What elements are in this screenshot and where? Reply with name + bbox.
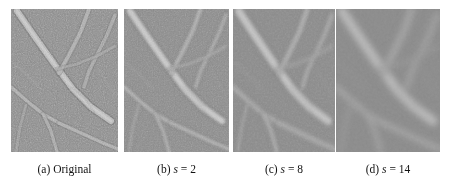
panel-row: (a) Original (b) s = 2 (c) s = 8 (d) s =… bbox=[0, 0, 451, 185]
caption-b-prefix: (b) bbox=[157, 163, 170, 175]
image-panel-c[interactable] bbox=[233, 9, 335, 152]
caption-d-prefix: (d) bbox=[366, 163, 379, 175]
panel-a-svg bbox=[11, 9, 118, 152]
figure-container: (a) Original (b) s = 2 (c) s = 8 (d) s =… bbox=[0, 0, 451, 185]
caption-panel-b: (b) s = 2 bbox=[124, 160, 229, 178]
panel-a-image bbox=[11, 9, 118, 152]
panel-c-svg bbox=[233, 9, 335, 152]
caption-a-prefix: (a) bbox=[38, 163, 51, 175]
panel-d-svg bbox=[336, 9, 440, 152]
caption-panel-c: (c) s = 8 bbox=[233, 160, 335, 178]
caption-a-label: Original bbox=[53, 163, 91, 175]
image-panel-a[interactable] bbox=[11, 9, 118, 152]
image-panel-b[interactable] bbox=[124, 9, 229, 152]
caption-b-value: 2 bbox=[190, 163, 196, 175]
caption-c-value: 8 bbox=[297, 163, 303, 175]
panel-c-image bbox=[233, 9, 335, 152]
caption-panel-a: (a) Original bbox=[11, 160, 118, 178]
caption-c-prefix: (c) bbox=[265, 163, 278, 175]
caption-panel-d: (d) s = 14 bbox=[336, 160, 440, 178]
panel-b-image bbox=[124, 9, 229, 152]
panel-d-image bbox=[336, 9, 440, 152]
image-panel-d[interactable] bbox=[336, 9, 440, 152]
caption-d-value: 14 bbox=[399, 163, 411, 175]
panel-b-svg bbox=[124, 9, 229, 152]
